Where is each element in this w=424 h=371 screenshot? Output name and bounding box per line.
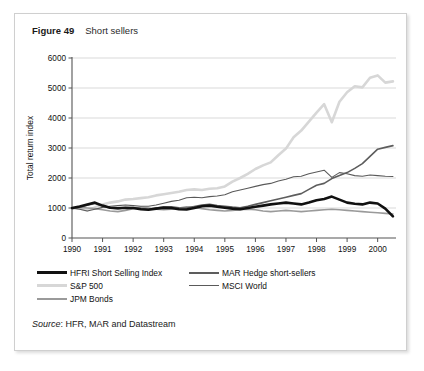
- y-tick-label: 0: [61, 234, 66, 243]
- x-tick-label: 1994: [185, 245, 204, 254]
- legend-item-sp-500: S&P 500: [37, 279, 189, 292]
- y-tick-label: 4000: [48, 114, 67, 123]
- legend-swatch-sp500: [37, 284, 67, 287]
- x-tick-label: 1992: [124, 245, 143, 254]
- y-axis-title: Total return index: [25, 115, 35, 180]
- y-tick-label: 6000: [48, 54, 67, 63]
- x-tick-label: 2000: [369, 245, 388, 254]
- x-tick-label: 1997: [277, 245, 296, 254]
- legend-row: S&P 500 MSCI World: [37, 279, 397, 292]
- legend-label-msci-world: MSCI World: [222, 281, 267, 291]
- x-tick-label: 1996: [246, 245, 265, 254]
- x-tick-label: 1990: [63, 245, 82, 254]
- legend-label-mar-hedge: MAR Hedge short-sellers: [222, 268, 316, 278]
- legend-item-msci-world: MSCI World: [189, 279, 267, 292]
- y-tick-label: 5000: [48, 84, 67, 93]
- legend-swatch-jpm-bonds: [37, 298, 67, 300]
- legend-label-jpm-bonds: JPM Bonds: [70, 294, 113, 304]
- x-tick-label: 1993: [155, 245, 174, 254]
- x-tick-label: 1998: [307, 245, 326, 254]
- legend-label-sp500: S&P 500: [70, 281, 103, 291]
- series-line-msci-world: [72, 170, 393, 211]
- legend-row: JPM Bonds: [37, 292, 397, 305]
- legend-label-hfri: HFRI Short Selling Index: [70, 268, 162, 278]
- x-tick-label: 1991: [93, 245, 112, 254]
- y-tick-label: 3000: [48, 144, 67, 153]
- chart-legend: HFRI Short Selling Index MAR Hedge short…: [37, 266, 397, 305]
- x-tick-label: 1995: [216, 245, 235, 254]
- legend-item-hfri-short-selling-index: HFRI Short Selling Index: [37, 266, 189, 279]
- legend-item-jpm-bonds: JPM Bonds: [37, 292, 189, 305]
- legend-swatch-hfri: [37, 271, 67, 274]
- x-tick-label: 1999: [338, 245, 357, 254]
- source-text: : HFR, MAR and Datastream: [61, 319, 176, 329]
- y-tick-label: 1000: [48, 204, 67, 213]
- legend-item-mar-hedge-short-sellers: MAR Hedge short-sellers: [189, 266, 316, 279]
- source-label: Source: [32, 319, 61, 329]
- source-note: Source: HFR, MAR and Datastream: [32, 319, 176, 329]
- legend-swatch-mar-hedge: [189, 272, 219, 274]
- legend-swatch-msci-world: [189, 285, 219, 286]
- y-tick-label: 2000: [48, 174, 67, 183]
- legend-row: HFRI Short Selling Index MAR Hedge short…: [37, 266, 397, 279]
- series-line-s-p-500: [72, 75, 393, 210]
- figure-card: Figure 49Short sellers 01000200030004000…: [14, 13, 407, 351]
